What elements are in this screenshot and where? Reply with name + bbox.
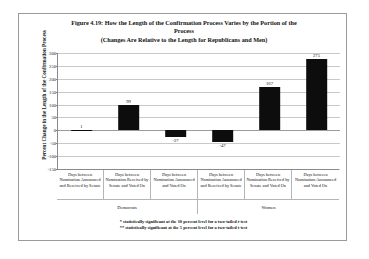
bar-slot[interactable]: -47 [199,53,246,169]
category-label-cell: Days between Nomination Announced and Re… [198,170,245,200]
bar-value-label: 167 [266,81,273,86]
bar-value-label: 99 [126,99,131,104]
category-label-cell: Days between Nomination Received by Sena… [104,170,151,200]
bar[interactable] [306,59,328,130]
y-tick-label: 0 [54,128,56,133]
footnote-2: ** statistically significant at the 5 pe… [19,225,348,231]
bar-slot[interactable]: 1 [58,53,105,169]
y-tick-label: 200 [49,76,56,81]
figure-title-line2: Process [43,27,325,35]
category-label: Days between Nomination Announced and Re… [58,172,102,188]
group-axis: DemocratsWomen [57,199,339,213]
group-label: Women [262,205,276,210]
group-label-cell: Democrats [57,200,198,214]
category-label-cell: Days between Nomination Announced and Re… [57,170,104,200]
y-tick-label: 300 [49,51,56,56]
plot-area: 300250200150100500-50-100-150 199-27-471… [57,53,339,169]
category-label: Days between Nomination Announced and Vo… [293,172,338,188]
category-label: Days between Nomination Received by Sena… [105,172,149,188]
category-label-cell: Days between Nomination Received by Sena… [245,170,292,200]
bar-series: 199-27-47167275 [58,53,340,169]
y-tick-label: -100 [48,154,56,159]
bar[interactable] [212,130,234,142]
bar-slot[interactable]: 167 [246,53,293,169]
bar[interactable] [259,87,281,130]
y-tick-label: 100 [49,102,56,107]
y-tick-label: 50 [51,115,56,120]
category-label: Days between Nomination Announced and Vo… [152,172,196,188]
y-axis-title: Percent Change in the Length of the Conf… [41,20,47,170]
bar[interactable] [71,130,93,131]
y-tick-label: -50 [50,141,56,146]
footnotes: * statistically significant at the 10 pe… [19,219,348,231]
bar-value-label: 1 [80,124,82,129]
figure-title-line1: Figure 4.19: How the Length of the Confi… [43,19,325,27]
category-label: Days between Nomination Announced and Re… [199,172,243,188]
category-label: Days between Nomination Received by Sena… [246,172,290,188]
bar[interactable] [165,130,187,137]
bar-slot[interactable]: 275 [293,53,340,169]
figure-frame: Figure 4.19: How the Length of the Confi… [18,13,347,241]
bar-value-label: 275 [313,53,320,58]
y-tick-label: -150 [48,167,56,172]
figure-title-line3: (Changes Are Relative to the Length for … [43,36,325,44]
bar[interactable] [118,105,140,131]
bar-value-label: -47 [219,143,225,148]
y-tick-label: 250 [49,63,56,68]
bar-value-label: -27 [172,138,178,143]
category-label-cell: Days between Nomination Announced and Vo… [292,170,339,200]
group-label: Democrats [117,205,137,210]
figure-title: Figure 4.19: How the Length of the Confi… [43,19,325,45]
y-tick-label: 150 [49,89,56,94]
group-label-cell: Women [198,200,339,214]
bar-slot[interactable]: -27 [152,53,199,169]
bar-slot[interactable]: 99 [105,53,152,169]
category-label-cell: Days between Nomination Announced and Vo… [151,170,198,200]
